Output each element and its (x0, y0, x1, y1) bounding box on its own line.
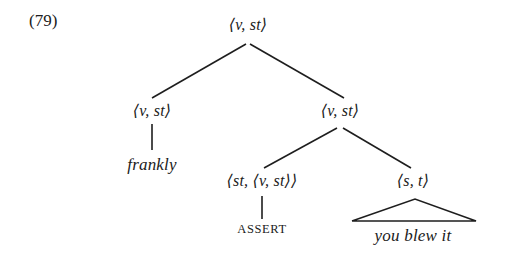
node-frankly-word: frankly (127, 155, 177, 175)
node-root-type: ⟨v, st⟩ (229, 15, 267, 34)
node-you-blew-it-phrase: you blew it (375, 226, 452, 246)
example-figure: (79) ⟨v, st⟩ ⟨v, st⟩ frankly ⟨v, st⟩ ⟨st… (0, 0, 507, 271)
node-right-vst-type: ⟨v, st⟩ (321, 101, 359, 120)
edge-root-to-right-vst (250, 44, 344, 98)
triangle-icon (352, 199, 476, 221)
node-assert-type: ⟨st, ⟨v, st⟩⟩ (227, 171, 298, 190)
edge-right-vst-to-st-type (343, 128, 411, 168)
node-left-vst-type: ⟨v, st⟩ (133, 101, 171, 120)
edge-right-vst-to-assert-type (264, 128, 337, 168)
node-st-type: ⟨s, t⟩ (397, 171, 429, 190)
edge-root-to-left-vst (152, 44, 246, 98)
node-assert-operator: ASSERT (237, 222, 286, 237)
